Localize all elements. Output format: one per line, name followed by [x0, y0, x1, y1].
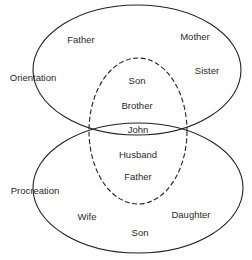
label-father-procreation: Father	[124, 172, 151, 182]
label-john: John	[128, 125, 149, 135]
label-brother: Brother	[121, 101, 152, 111]
label-son-inner: Son	[129, 76, 146, 86]
label-father-orientation: Father	[67, 35, 94, 45]
label-wife: Wife	[78, 212, 97, 222]
label-orientation: Orientation	[10, 73, 56, 83]
label-procreation: Procreation	[11, 186, 60, 196]
label-daughter: Daughter	[171, 210, 210, 220]
label-son-bottom: Son	[132, 228, 149, 238]
label-sister: Sister	[195, 66, 219, 76]
label-husband: Husband	[119, 150, 157, 160]
venn-diagram	[0, 0, 252, 260]
label-mother: Mother	[180, 32, 210, 42]
